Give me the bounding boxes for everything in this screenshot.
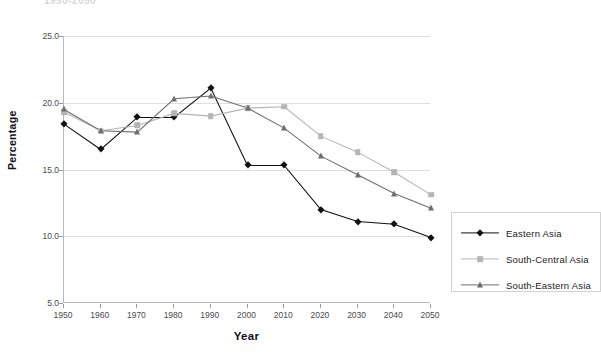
x-axis-label: Year: [63, 330, 430, 342]
legend-label: South-Eastern Asia: [506, 280, 591, 291]
data-point: [392, 169, 398, 175]
legend-swatch: [461, 253, 499, 265]
series-line: [64, 96, 431, 208]
x-tick-label: 2050: [421, 310, 440, 320]
x-tick-label: 1960: [90, 310, 109, 320]
x-tick-label: 1990: [200, 310, 219, 320]
data-point: [281, 125, 287, 131]
x-tick-label: 2040: [384, 310, 403, 320]
legend-swatch: [461, 279, 499, 291]
x-tick-mark: [320, 304, 321, 308]
data-point: [171, 95, 177, 101]
data-point: [61, 106, 67, 112]
data-point: [245, 105, 251, 111]
x-tick-mark: [100, 304, 101, 308]
legend-swatch: [461, 227, 499, 239]
legend-item-3[interactable]: South-Eastern Asia: [461, 278, 591, 292]
y-axis-ticks: 5.010.015.020.025.0: [22, 36, 59, 303]
x-tick-mark: [430, 304, 431, 308]
x-tick-mark: [63, 304, 64, 308]
y-tick-label: 10.0: [25, 231, 59, 241]
x-tick-mark: [136, 304, 137, 308]
chart-legend: Eastern AsiaSouth-Central AsiaSouth-East…: [451, 212, 601, 292]
data-point: [318, 133, 324, 139]
y-tick-label: 5.0: [25, 298, 59, 308]
x-tick-label: 1970: [127, 310, 146, 320]
data-point: [98, 127, 104, 133]
data-point: [318, 153, 324, 159]
x-tick-mark: [210, 304, 211, 308]
plot-area: [63, 36, 430, 303]
data-point: [355, 171, 361, 177]
data-point: [134, 129, 140, 135]
data-point: [208, 93, 214, 99]
data-point: [391, 190, 397, 196]
series-lines: [64, 36, 431, 303]
x-tick-label: 1980: [164, 310, 183, 320]
x-tick-label: 2000: [237, 310, 256, 320]
x-tick-mark: [247, 304, 248, 308]
x-tick-label: 2010: [274, 310, 293, 320]
data-point: [135, 123, 141, 129]
legend-item-1[interactable]: Eastern Asia: [461, 226, 562, 240]
series-line: [64, 107, 431, 195]
legend-label: Eastern Asia: [506, 228, 562, 239]
square-marker-icon: [477, 256, 483, 262]
x-tick-mark: [393, 304, 394, 308]
triangle-marker-icon: [477, 282, 483, 288]
x-tick-mark: [283, 304, 284, 308]
y-tick-label: 15.0: [25, 165, 59, 175]
x-tick-mark: [173, 304, 174, 308]
data-point: [171, 111, 177, 117]
data-point: [208, 113, 214, 119]
legend-label: South-Central Asia: [506, 254, 589, 265]
x-tick-label: 1950: [54, 310, 73, 320]
chart-title: 1950-2050: [44, 0, 96, 6]
data-point: [428, 192, 434, 198]
data-point: [355, 149, 361, 155]
diamond-marker-icon: [476, 229, 483, 236]
data-point: [281, 104, 287, 110]
x-tick-label: 2020: [310, 310, 329, 320]
data-point: [428, 205, 434, 211]
x-tick-label: 2030: [347, 310, 366, 320]
x-axis-ticks: 1950196019701980199020002010202020302040…: [63, 304, 430, 330]
y-axis-label: Percentage: [6, 110, 18, 170]
x-tick-mark: [357, 304, 358, 308]
y-tick-label: 20.0: [25, 98, 59, 108]
legend-item-2[interactable]: South-Central Asia: [461, 252, 589, 266]
y-tick-label: 25.0: [25, 31, 59, 41]
